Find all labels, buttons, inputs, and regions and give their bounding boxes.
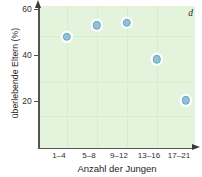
gridline-horizontal — [39, 82, 195, 83]
x-tick-label-1-4: 1–4 — [45, 151, 73, 160]
y-axis-line — [38, 7, 40, 149]
panel-label-d: d — [188, 8, 193, 18]
plot-area — [39, 6, 195, 148]
y-axis-tick — [34, 9, 38, 10]
y-axis-arrow-icon — [35, 0, 41, 8]
x-tick-label-17-21: 17–21 — [163, 151, 195, 160]
x-axis-arrow-icon — [192, 144, 200, 150]
scatter-chart-figure: 60 40 20 1–4 5–8 9–12 13–16 17–21 Anzahl… — [0, 0, 202, 177]
gridline-vertical — [157, 6, 158, 148]
gridline-vertical — [67, 6, 68, 148]
gridline-horizontal — [39, 116, 195, 117]
y-axis-tick — [34, 55, 38, 56]
x-tick-label-5-8: 5–8 — [75, 151, 103, 160]
y-axis-tick — [34, 101, 38, 102]
y-axis-title-wrapper: überlebende Eltern (%) — [9, 0, 21, 146]
x-axis-title: Anzahl der Jungen — [39, 163, 195, 174]
gridline-vertical — [127, 6, 128, 148]
x-tick-label-9-12: 9–12 — [104, 151, 134, 160]
y-axis-title: überlebende Eltern (%) — [10, 28, 20, 119]
x-axis-line — [38, 148, 193, 150]
x-tick-label-13-16: 13–16 — [133, 151, 165, 160]
